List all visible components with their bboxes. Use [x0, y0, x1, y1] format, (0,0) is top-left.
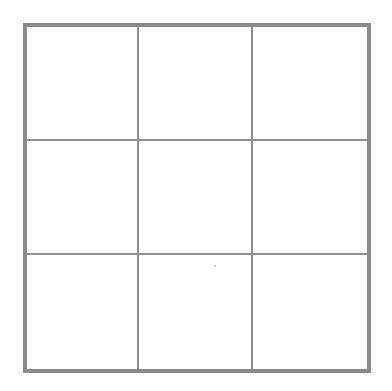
grid-cell-r3c1 [27, 255, 137, 369]
grid-cell-r2c1 [27, 141, 137, 253]
grid-cell-r3c3 [253, 255, 367, 369]
scan-speck [214, 265, 216, 267]
grid-cell-r1c3 [253, 27, 367, 139]
grid-cell-r2c2 [139, 141, 251, 253]
grid-3x3 [23, 23, 371, 373]
grid-cell-r2c3 [253, 141, 367, 253]
canvas [0, 0, 392, 391]
grid-cell-r3c2 [139, 255, 251, 369]
grid-cell-r1c1 [27, 27, 137, 139]
grid-cell-r1c2 [139, 27, 251, 139]
